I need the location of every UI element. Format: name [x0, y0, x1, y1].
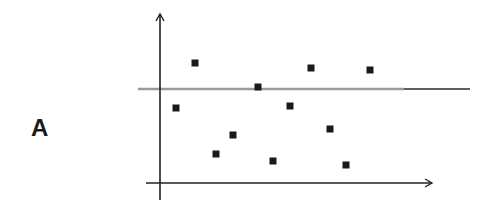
data-point [287, 103, 294, 110]
data-point [255, 84, 262, 91]
data-point [343, 162, 350, 169]
scatter-plot [0, 0, 488, 209]
data-point [367, 67, 374, 74]
data-point [213, 151, 220, 158]
data-point [308, 65, 315, 72]
data-point [192, 60, 199, 67]
data-point [230, 132, 237, 139]
data-point [327, 126, 334, 133]
data-point [270, 158, 277, 165]
data-points [173, 60, 374, 169]
data-point [173, 105, 180, 112]
